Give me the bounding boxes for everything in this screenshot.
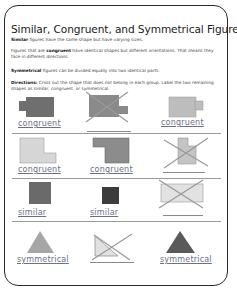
shape-row3-2 [101,186,121,206]
label-row4-3[interactable]: symmetrical [160,255,212,264]
shape-row1-1 [18,96,58,118]
label-row2-2[interactable]: congruent [90,165,133,174]
congruent-prefix: Figures that are [11,48,46,53]
shape-row2-2 [92,137,132,165]
divider [12,178,221,179]
blank-row4-2[interactable] [90,262,134,263]
divider [12,133,221,134]
label-row3-1[interactable]: similar [18,208,46,217]
label-row1-1[interactable]: congruent [18,119,61,128]
similar-definition: Similar figures have the same shape but … [11,37,219,43]
directions: Directions: Cross out the shape that doe… [11,80,219,92]
shape-row2-3-crossed [164,136,214,168]
shape-row1-2-crossed [86,92,136,122]
label-row4-1[interactable]: symmetrical [17,255,69,264]
label-row1-3[interactable]: congruent [161,118,204,127]
shape-row4-3 [165,230,197,254]
congruent-term: congruent [46,48,71,53]
shape-row1-3 [168,96,208,118]
shape-row2-1 [19,137,59,165]
page-title: Similar, Congruent, and Symmetrical Figu… [11,23,237,35]
shape-row3-3-crossed [159,180,207,208]
symmetrical-text: figures can be divided equally into two … [41,68,159,73]
blank-row2-3[interactable] [163,172,205,173]
similar-term: Similar [11,37,28,42]
symmetrical-definition: Symmetrical figures can be divided equal… [11,68,219,74]
congruent-definition: Figures that are congruent have identica… [11,48,219,60]
label-row2-1[interactable]: congruent [18,165,61,174]
symmetrical-term: Symmetrical [11,68,41,73]
blank-row1-2[interactable] [87,131,131,132]
shape-row3-1 [28,181,52,205]
shape-row4-2-crossed [88,232,136,262]
label-row3-2[interactable]: similar [90,208,118,217]
divider [12,221,221,222]
directions-text: Cross out the shape that does not belong… [11,80,214,91]
similar-text: figures have the same shape but have var… [28,37,143,42]
blank-row3-3[interactable] [163,215,203,216]
directions-term: Directions: [11,80,37,85]
shape-row4-1 [26,230,56,254]
